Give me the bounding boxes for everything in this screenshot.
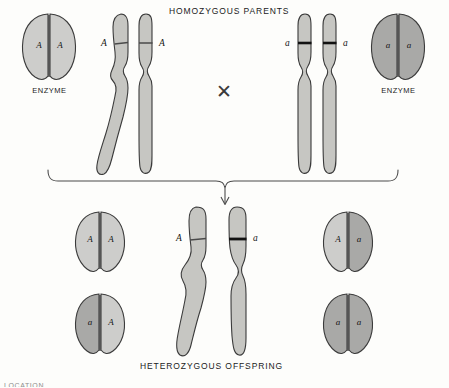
enzyme-parent-right <box>372 14 425 80</box>
enzyme-offspring-bottom-right <box>323 294 372 354</box>
chromosome-offspring-label-a: a <box>253 233 258 243</box>
chromosome-parent-left-2 <box>139 14 152 173</box>
enzyme-offspring-top-left-allele-left: A <box>84 234 96 244</box>
chromosome-parent-right-2 <box>323 14 336 173</box>
enzyme-offspring-top-left <box>75 212 124 272</box>
chromosome-parent-left-label-2: A <box>159 38 165 48</box>
enzyme-offspring-bottom-left-allele-left: a <box>84 317 96 327</box>
chromosome-offspring-A <box>177 207 206 356</box>
enzyme-offspring-bottom-right-allele-right: a <box>353 317 365 327</box>
enzyme-parent-right-caption: ENZYME <box>373 86 424 95</box>
enzyme-offspring-top-left-allele-right: A <box>105 234 117 244</box>
enzyme-parent-right-allele-right: a <box>403 40 415 50</box>
chromosome-parent-right-label-1: a <box>285 38 290 48</box>
chromosome-offspring-label-A: A <box>176 233 182 243</box>
bottom-heading: HETEROZYGOUS OFFSPRING <box>140 361 283 371</box>
chromosome-parent-left-label-1: A <box>101 38 107 48</box>
page-edge-text-fragment: LOCATION <box>4 382 64 387</box>
enzyme-offspring-top-right-allele-right: a <box>353 234 365 244</box>
genetics-diagram-canvas: HOMOZYGOUS PARENTS ✕ A A ENZYME A A a a … <box>0 0 449 388</box>
enzyme-offspring-bottom-right-allele-left: a <box>332 317 344 327</box>
enzyme-offspring-top-right-allele-left: A <box>332 234 344 244</box>
chromosome-pair-parent-right <box>298 14 337 173</box>
cross-symbol: ✕ <box>216 82 232 101</box>
chromosome-offspring-a <box>229 207 246 355</box>
top-heading: HOMOZYGOUS PARENTS <box>169 6 289 16</box>
enzyme-parent-left <box>23 14 76 80</box>
diagram-graphics-layer <box>0 0 449 388</box>
enzyme-parent-left-allele-right: A <box>54 40 66 50</box>
enzyme-parent-left-caption: ENZYME <box>24 86 75 95</box>
enzyme-offspring-bottom-left-allele-right: A <box>105 317 117 327</box>
chromosome-parent-right-1 <box>298 14 311 173</box>
enzyme-offspring-top-right <box>323 212 372 272</box>
enzyme-parent-right-allele-left: a <box>382 40 394 50</box>
enzyme-offspring-bottom-left <box>75 294 124 354</box>
cross-brace <box>48 170 398 205</box>
chromosome-pair-offspring <box>177 207 247 356</box>
enzyme-parent-left-allele-left: A <box>33 40 45 50</box>
chromosome-parent-right-label-2: a <box>343 38 348 48</box>
